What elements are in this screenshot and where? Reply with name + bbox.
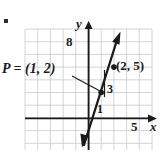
y-axis-label: y bbox=[76, 17, 82, 30]
slope-rise-label: 3 bbox=[107, 83, 113, 95]
y-tick-label-8: 8 bbox=[66, 35, 73, 48]
point-label-q: (2, 5) bbox=[116, 59, 144, 72]
point-label-p: P = (1, 2) bbox=[2, 62, 55, 76]
x-tick-label-5: 5 bbox=[131, 120, 138, 133]
x-axis-label: x bbox=[150, 120, 157, 133]
slope-run-label: 1 bbox=[97, 103, 103, 115]
